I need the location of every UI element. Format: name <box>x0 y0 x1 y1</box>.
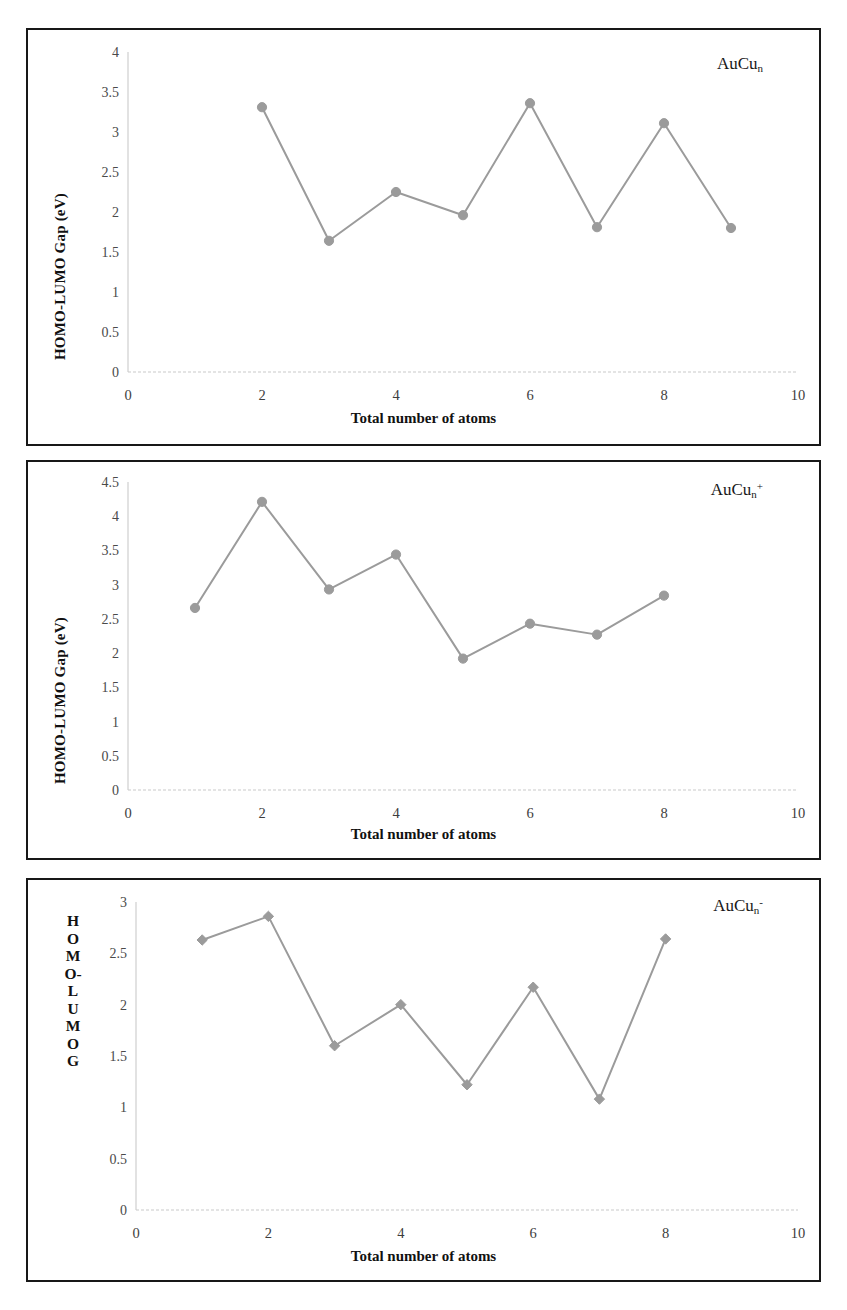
data-point-marker <box>458 211 467 220</box>
data-point-marker <box>190 603 199 612</box>
data-point-marker <box>458 654 467 663</box>
y-tick-label: 2.5 <box>102 165 120 180</box>
data-point-marker <box>257 497 266 506</box>
data-point-marker <box>257 103 266 112</box>
chart-plot-neutral: 00.511.522.533.540246810 <box>28 30 819 444</box>
series-label-base: AuCu <box>711 480 752 499</box>
y-axis-title: HOMO-LUMO Gap (eV) <box>52 617 69 784</box>
figure-page: 00.511.522.533.540246810 HOMO-LUMO Gap (… <box>0 0 847 1310</box>
x-tick-label: 4 <box>392 805 400 821</box>
y-tick-label: 0.5 <box>102 749 120 764</box>
y-tick-label: 3.5 <box>102 543 120 558</box>
data-point-marker <box>525 619 534 628</box>
y-tick-label: 3 <box>120 895 127 910</box>
x-tick-label: 8 <box>660 805 667 821</box>
y-tick-label: 0.5 <box>110 1152 128 1167</box>
y-tick-label: 1.5 <box>102 245 120 260</box>
y-tick-label: 1 <box>120 1100 127 1115</box>
y-axis-title-letter: L <box>62 982 84 1000</box>
y-tick-label: 0 <box>112 365 119 380</box>
x-tick-label: 2 <box>258 805 265 821</box>
y-tick-label: 2 <box>112 205 119 220</box>
data-point-marker <box>659 591 668 600</box>
data-point-marker <box>197 935 207 945</box>
y-tick-label: 1 <box>112 715 119 730</box>
data-point-marker <box>329 1041 339 1051</box>
y-axis-title: HOMO-LUMO Gap (eV) <box>52 193 69 360</box>
chart-panel-cation: 00.511.522.533.544.50246810 HOMO-LUMO Ga… <box>26 460 821 860</box>
x-tick-label: 8 <box>662 1225 669 1241</box>
x-tick-label: 6 <box>526 387 533 403</box>
series-label-cation: AuCun+ <box>711 480 763 500</box>
data-point-marker <box>391 187 400 196</box>
y-axis-title-letter: O <box>62 1035 84 1053</box>
y-tick-label: 1.5 <box>102 680 120 695</box>
x-tick-label: 6 <box>530 1225 537 1241</box>
y-tick-label: 4 <box>112 45 119 60</box>
chart-plot-cation: 00.511.522.533.544.50246810 <box>28 462 819 858</box>
y-tick-label: 0.5 <box>102 325 120 340</box>
chart-plot-anion: 00.511.522.530246810 <box>28 880 819 1280</box>
y-axis-title-stacked: HOMO-LUMOG <box>62 912 84 1070</box>
y-tick-label: 4.5 <box>102 475 120 490</box>
y-tick-label: 3 <box>112 578 119 593</box>
x-tick-label: 2 <box>258 387 265 403</box>
x-tick-label: 0 <box>124 805 131 821</box>
series-label-neutral: AuCun <box>717 54 763 74</box>
series-label-base: AuCu <box>717 54 758 73</box>
x-tick-label: 10 <box>791 1225 806 1241</box>
series-label-subscript: n <box>758 62 764 74</box>
x-tick-label: 10 <box>791 387 806 403</box>
y-tick-label: 2.5 <box>110 946 128 961</box>
y-axis-title-letter: M <box>62 947 84 965</box>
data-point-marker <box>391 550 400 559</box>
x-tick-label: 0 <box>132 1225 139 1241</box>
y-tick-label: 2 <box>112 646 119 661</box>
y-tick-label: 1.5 <box>110 1049 128 1064</box>
chart-panel-neutral: 00.511.522.533.540246810 HOMO-LUMO Gap (… <box>26 28 821 446</box>
data-point-marker <box>525 99 534 108</box>
data-point-marker <box>263 911 273 921</box>
data-point-marker <box>726 223 735 232</box>
x-tick-label: 10 <box>791 805 806 821</box>
x-tick-label: 6 <box>526 805 533 821</box>
x-axis-title: Total number of atoms <box>28 1248 819 1265</box>
y-tick-label: 0 <box>120 1203 127 1218</box>
data-series-line <box>202 916 665 1099</box>
y-axis-title-letter: O <box>62 930 84 948</box>
y-axis-title-letter: G <box>62 1052 84 1070</box>
data-point-marker <box>659 119 668 128</box>
x-tick-label: 4 <box>392 387 400 403</box>
y-axis-title-letter: H <box>62 912 84 930</box>
y-tick-label: 0 <box>112 783 119 798</box>
series-label-base: AuCu <box>713 896 754 915</box>
x-tick-label: 2 <box>265 1225 272 1241</box>
x-tick-label: 4 <box>397 1225 405 1241</box>
chart-panel-anion: 00.511.522.530246810 HOMO-LUMOG Total nu… <box>26 878 821 1282</box>
y-tick-label: 2.5 <box>102 612 120 627</box>
data-point-marker <box>594 1094 604 1104</box>
x-tick-label: 8 <box>660 387 667 403</box>
series-label-superscript: + <box>757 480 763 492</box>
data-point-marker <box>660 934 670 944</box>
x-tick-label: 0 <box>124 387 131 403</box>
y-tick-label: 3.5 <box>102 85 120 100</box>
data-point-marker <box>324 236 333 245</box>
x-axis-title: Total number of atoms <box>28 410 819 427</box>
y-tick-label: 3 <box>112 125 119 140</box>
x-axis-title: Total number of atoms <box>28 826 819 843</box>
series-label-anion: AuCun- <box>713 896 763 916</box>
data-point-marker <box>592 630 601 639</box>
data-point-marker <box>592 223 601 232</box>
y-axis-title-letter: U <box>62 1000 84 1018</box>
y-tick-label: 4 <box>112 509 119 524</box>
y-tick-label: 2 <box>120 998 127 1013</box>
y-axis-title-letter: M <box>62 1017 84 1035</box>
y-axis-title-letter: O- <box>62 965 84 983</box>
series-label-superscript: - <box>759 896 763 908</box>
data-point-marker <box>324 585 333 594</box>
y-tick-label: 1 <box>112 285 119 300</box>
